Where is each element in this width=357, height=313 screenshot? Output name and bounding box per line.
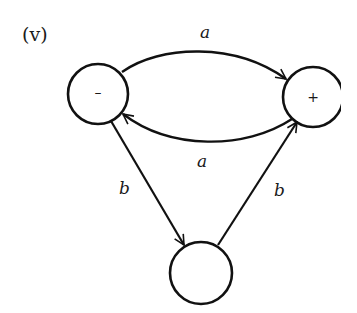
node-plus-sign: +	[307, 89, 319, 105]
edge-plus-to-minus-a	[123, 114, 292, 142]
edge-label-right-b: b	[274, 180, 285, 200]
panel-label: (v)	[22, 23, 48, 45]
edge-label-top-a: a	[200, 22, 210, 42]
node-minus-sign: –	[95, 84, 102, 100]
edge-minus-to-plus-a	[122, 51, 286, 79]
edge-label-bottom-a: a	[197, 151, 207, 171]
edge-label-left-b: b	[119, 178, 130, 198]
node-bottom	[170, 242, 232, 304]
state-diagram	[0, 0, 357, 313]
